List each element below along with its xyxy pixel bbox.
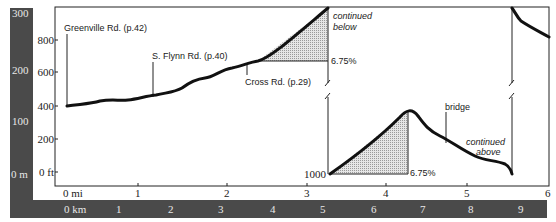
- km-tick-6: 6: [371, 203, 377, 215]
- km-tick-9: 9: [518, 203, 524, 215]
- feet-tick-400: 400: [38, 100, 55, 112]
- label-greenville-rd: Greenville Rd. (p.42): [64, 23, 147, 33]
- km-tick-0: 0 km: [64, 203, 87, 215]
- annotations: Greenville Rd. (p.42) S. Flynn Rd. (p.40…: [64, 11, 506, 178]
- mile-tick-0: 0 mi: [63, 187, 83, 199]
- feet-tick-800: 800: [38, 34, 55, 46]
- mile-tick-6: 6: [545, 187, 551, 199]
- mile-tick-1: 1: [135, 187, 141, 199]
- meter-scale-band: [10, 8, 33, 218]
- km-tick-7: 7: [420, 203, 426, 215]
- km-tick-1: 1: [116, 203, 122, 215]
- feet-tick-200: 200: [38, 133, 55, 145]
- label-continued-above-1: continued: [466, 137, 506, 147]
- meter-tick-0: 0 m: [11, 168, 28, 180]
- mile-tick-2: 2: [224, 187, 230, 199]
- meter-tick-200: 200: [12, 64, 29, 76]
- mile-tick-4: 4: [383, 187, 389, 199]
- km-tick-4: 4: [270, 203, 276, 215]
- label-grade-lower: 6.75%: [410, 168, 436, 178]
- feet-tick-600: 600: [38, 66, 55, 78]
- label-cross-rd: Cross Rd. (p.29): [245, 77, 311, 87]
- label-s-flynn-rd: S. Flynn Rd. (p.40): [152, 51, 228, 61]
- km-tick-8: 8: [468, 203, 474, 215]
- mile-tick-3: 3: [304, 187, 310, 199]
- km-tick-5: 5: [320, 203, 326, 215]
- meter-tick-300: 300: [12, 7, 29, 19]
- meter-tick-100: 100: [12, 115, 29, 127]
- km-scale-band: [10, 200, 547, 218]
- elevation-profile-chart: 300 200 100 0 m 0 km 1 2 3 4 5 6 7 8 9 8…: [0, 0, 556, 222]
- km-tick-3: 3: [218, 203, 224, 215]
- mile-axis: 0 mi 1 2 3 4 5 6: [63, 187, 551, 199]
- label-continued-above-2: above: [476, 147, 501, 157]
- feet-tick-0: 0 ft: [39, 166, 54, 178]
- mile-tick-5: 5: [464, 187, 470, 199]
- feet-tick-1000: 1000: [304, 168, 327, 180]
- label-continued-below-2: below: [333, 22, 357, 32]
- profile-line-resumed: [512, 8, 549, 37]
- label-continued-below-1: continued: [333, 11, 373, 21]
- feet-axis: 800 600 400 200 0 ft: [38, 34, 55, 178]
- label-grade-upper: 6.75%: [331, 56, 357, 66]
- km-tick-2: 2: [168, 203, 174, 215]
- label-bridge: bridge: [445, 102, 470, 112]
